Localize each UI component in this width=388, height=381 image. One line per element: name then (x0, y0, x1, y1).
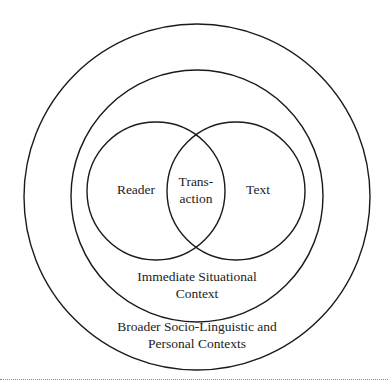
broader-context-label: Broader Socio-Linguistic and Personal Co… (77, 318, 317, 352)
reader-label: Reader (106, 181, 166, 198)
broader-context-line1: Broader Socio-Linguistic and (77, 318, 317, 335)
broader-context-line2: Personal Contexts (77, 335, 317, 352)
transaction-label-line1: Trans- (166, 173, 226, 190)
situational-context-label: Immediate Situational Context (97, 268, 297, 302)
situational-context-line1: Immediate Situational (97, 268, 297, 285)
situational-context-line2: Context (97, 285, 297, 302)
transaction-label-line2: action (166, 190, 226, 207)
text-label: Text (228, 181, 288, 198)
dotted-divider (0, 379, 388, 380)
transaction-label: Trans- action (166, 173, 226, 207)
